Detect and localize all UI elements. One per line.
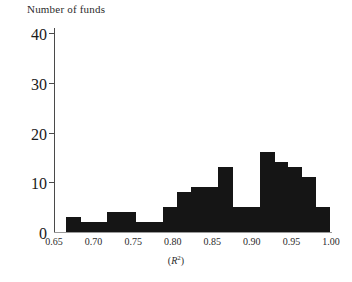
y-tick-label-30: 30 [0,76,47,94]
y-tick-label-0: 0 [0,225,47,243]
x-tick-label-0.65: 0.65 [45,236,63,247]
histogram-bar [191,187,206,232]
y-tick-30 [49,83,55,84]
y-axis-line [54,28,55,233]
histogram-bar [260,152,275,232]
histogram-bar [94,222,109,232]
y-tick-40 [49,33,55,34]
histogram-bar [149,222,164,232]
y-tick-label-20: 20 [0,126,47,144]
histogram-bar [80,222,95,232]
x-tick-label-0.80: 0.80 [164,236,182,247]
histogram-bar [135,222,150,232]
histogram-bar [204,187,219,232]
y-tick-label-10: 10 [0,175,47,193]
x-tick-label-0.90: 0.90 [243,236,261,247]
y-tick-10 [49,182,55,183]
histogram-chart: Number of funds 010203040 0.650.700.750.… [0,0,352,282]
histogram-bar [163,207,178,232]
histogram-bar [232,207,247,232]
y-tick-label-40: 40 [0,26,47,44]
x-tick-label-0.85: 0.85 [204,236,222,247]
histogram-bar [66,217,81,232]
histogram-bar [177,192,192,232]
x-axis-title: (R2) [0,254,352,266]
histogram-bar [315,207,330,232]
x-tick-label-0.75: 0.75 [124,236,142,247]
histogram-bar [246,207,261,232]
histogram-bar [287,167,302,232]
histogram-bar [274,162,289,232]
x-tick-label-1.00: 1.00 [322,236,340,247]
x-tick-label-0.95: 0.95 [283,236,301,247]
histogram-bar [218,167,233,232]
y-tick-20 [49,133,55,134]
histogram-bar [107,212,122,232]
x-tick-label-0.70: 0.70 [85,236,103,247]
x-axis-line [54,232,332,233]
x-axis-title-text: (R2) [168,255,184,266]
plot-area: 010203040 0.650.700.750.800.850.900.951.… [0,0,352,282]
histogram-bar [301,177,316,232]
histogram-bar [121,212,136,232]
